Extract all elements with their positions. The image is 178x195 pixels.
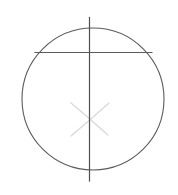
diagram-svg	[0, 0, 178, 195]
diagram-canvas: Geometric Circle Diagram Circle with ver…	[0, 0, 178, 195]
